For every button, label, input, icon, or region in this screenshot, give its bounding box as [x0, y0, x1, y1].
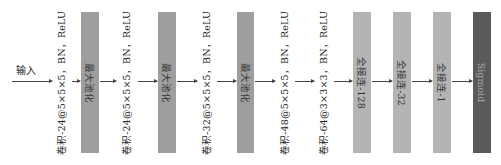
arrow-icon — [100, 81, 116, 82]
arrow-icon — [412, 81, 432, 82]
arrow-icon — [138, 81, 157, 82]
input-label: 输入 — [16, 62, 36, 77]
maxpool-layer-2: 最大池化 — [158, 12, 176, 153]
fc-layer-128: 全接连-128 — [353, 12, 371, 153]
pool-layer-label: 最大池化 — [239, 63, 253, 103]
arrow-icon — [217, 81, 236, 82]
maxpool-layer-1: 最大池化 — [81, 12, 99, 153]
fc-layer-label: 全接连-32 — [395, 60, 409, 105]
fc-layer-32: 全接连-32 — [393, 12, 411, 153]
conv-layer-3: 卷积-32@5×5×5，BN，ReLU — [197, 12, 215, 153]
arrow-icon — [177, 81, 197, 82]
sigmoid-layer-label: Sigmoid — [477, 63, 488, 102]
conv-layer-5: 卷积-64@3×3×3，BN，ReLU — [314, 12, 332, 153]
arrow-icon — [12, 81, 52, 82]
sigmoid-layer: Sigmoid — [473, 12, 491, 153]
conv-layer-label: 卷积-32@5×5×5，BN，ReLU — [199, 10, 213, 155]
conv-layer-label: 卷积-24@5×5×5，BN，ReLU — [54, 10, 68, 155]
fc-layer-label: 全接连-1 — [435, 63, 449, 102]
fc-layer-label: 全接连-128 — [355, 57, 369, 108]
conv-layer-label: 卷积-24@5×5×5，BN，ReLU — [119, 10, 133, 155]
arrow-icon — [452, 81, 472, 82]
conv-layer-2: 卷积-24@5×5×5，BN，ReLU — [117, 12, 135, 153]
arrow-icon — [334, 81, 352, 82]
arrow-icon — [372, 81, 392, 82]
fc-layer-1: 全接连-1 — [433, 12, 451, 153]
conv-layer-1: 卷积-24@5×5×5，BN，ReLU — [52, 12, 70, 153]
pool-layer-label: 最大池化 — [160, 63, 174, 103]
conv-layer-4: 卷积-48@5×5×5，BN，ReLU — [275, 12, 293, 153]
arrow-icon — [72, 81, 80, 82]
pool-layer-label: 最大池化 — [83, 63, 97, 103]
conv-layer-label: 卷积-64@3×3×3，BN，ReLU — [316, 10, 330, 155]
arrow-icon — [295, 81, 314, 82]
arrow-icon — [255, 81, 275, 82]
conv-layer-label: 卷积-48@5×5×5，BN，ReLU — [277, 10, 291, 155]
maxpool-layer-3: 最大池化 — [237, 12, 254, 153]
